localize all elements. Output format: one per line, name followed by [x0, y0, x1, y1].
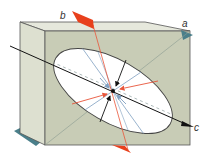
label-c: c — [194, 122, 199, 133]
block-side-face — [20, 22, 45, 145]
block-top-face — [20, 22, 190, 31]
label-b: b — [60, 10, 66, 21]
label-a: a — [182, 18, 188, 29]
center-point — [111, 89, 115, 93]
plane-b-bottom — [112, 145, 131, 153]
strain-ellipse-diagram: b a c — [0, 0, 209, 161]
